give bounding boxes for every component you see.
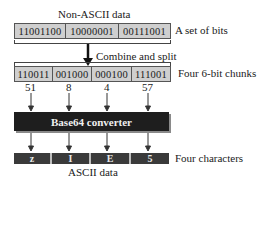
- char-row: z I E 5: [14, 153, 169, 164]
- decimal-value: 51: [25, 81, 36, 93]
- char-cell: E: [91, 153, 131, 164]
- ascii-data-caption: ASCII data: [68, 166, 118, 178]
- four-characters-label: Four characters: [175, 152, 243, 164]
- chunk-cell: 110011: [15, 67, 53, 81]
- six-bit-chunks-label: Four 6-bit chunks: [178, 67, 256, 79]
- char-cell: 5: [131, 153, 169, 164]
- chunk-cell: 000100: [92, 67, 132, 81]
- char-cell: z: [14, 153, 52, 164]
- chunk-cell: 111001: [132, 67, 170, 81]
- chunk-row: 110011 001000 000100 111001: [14, 66, 171, 82]
- chunk-cell: 001000: [53, 67, 92, 81]
- decimal-value: 8: [66, 81, 72, 93]
- decimal-value: 4: [104, 81, 110, 93]
- char-cell: I: [52, 153, 91, 164]
- decimal-value: 57: [142, 81, 153, 93]
- combine-split-label: Combine and split: [96, 50, 177, 62]
- base64-converter-box: Base64 converter: [14, 112, 169, 131]
